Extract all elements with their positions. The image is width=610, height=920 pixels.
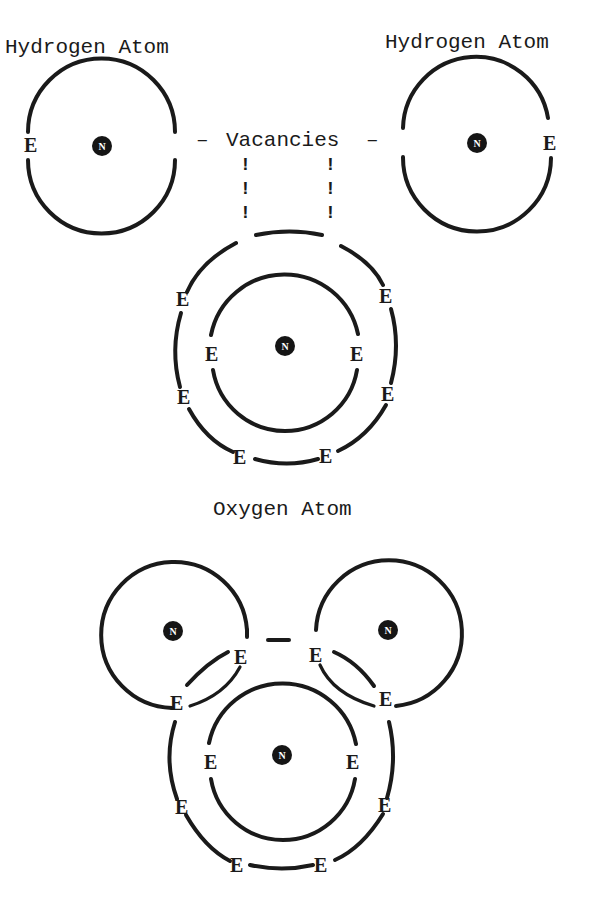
electron-label: E bbox=[350, 343, 363, 365]
outer-shell-arc bbox=[250, 865, 313, 869]
vacancy-marker: ! bbox=[325, 203, 336, 223]
inner-shell-arc bbox=[209, 683, 356, 744]
vacancies-annotation: – Vacancies – ! ! ! ! ! ! bbox=[196, 129, 379, 223]
oxygen-atom-label: Oxygen Atom bbox=[213, 498, 352, 521]
vacancy-marker: ! bbox=[325, 155, 336, 175]
electron-label: E bbox=[314, 854, 327, 876]
vacancy-marker: ! bbox=[325, 179, 336, 199]
vacancy-marker: ! bbox=[240, 203, 251, 223]
outer-shell-arc bbox=[256, 232, 322, 236]
outer-shell-arc bbox=[391, 309, 396, 383]
hydrogen-atom-right-label: Hydrogen Atom bbox=[385, 31, 549, 54]
hydrogen-atom-right: Hydrogen Atom E N bbox=[385, 31, 556, 232]
electron-label: E bbox=[346, 751, 359, 773]
outer-shell-arc bbox=[338, 405, 386, 451]
shared-bond-arc bbox=[334, 652, 374, 686]
electron-label: E bbox=[381, 383, 394, 405]
nucleus-label: N bbox=[473, 138, 481, 149]
outer-shell-arc bbox=[387, 722, 393, 798]
inner-shell-arc bbox=[211, 779, 355, 840]
orbit-arc bbox=[28, 59, 175, 133]
electron-label: E bbox=[176, 288, 189, 310]
electron-label: E bbox=[24, 134, 37, 156]
electron-label: E bbox=[204, 751, 217, 773]
electron-label: E bbox=[234, 646, 247, 668]
orbit-arc bbox=[403, 57, 548, 128]
inner-shell-arc bbox=[211, 274, 358, 335]
electron-label: E bbox=[543, 132, 556, 154]
water-molecule: E E E E E E E E E E N N N bbox=[101, 560, 462, 876]
outer-shell-arc bbox=[341, 246, 383, 285]
outer-shell-arc bbox=[186, 815, 230, 861]
inner-shell-arc bbox=[213, 370, 357, 431]
orbit-arc bbox=[28, 160, 175, 234]
nucleus-label: N bbox=[278, 750, 286, 761]
outer-shell-arc bbox=[255, 459, 318, 464]
outer-shell-arc bbox=[175, 313, 181, 387]
hydrogen-atom-left-label: Hydrogen Atom bbox=[5, 36, 169, 59]
vacancy-left-dash: – bbox=[196, 129, 209, 152]
vacancy-marker: ! bbox=[240, 179, 251, 199]
electron-label: E bbox=[309, 644, 322, 666]
vacancy-right-dash: – bbox=[366, 129, 379, 152]
shared-bond-arc bbox=[187, 652, 228, 685]
electron-label: E bbox=[319, 445, 332, 467]
vacancies-label: Vacancies bbox=[226, 129, 339, 152]
vacancy-marker: ! bbox=[240, 155, 251, 175]
electron-label: E bbox=[233, 446, 246, 468]
electron-label: E bbox=[205, 343, 218, 365]
nucleus-label: N bbox=[98, 141, 106, 152]
electron-label: E bbox=[379, 285, 392, 307]
outer-shell-arc bbox=[187, 243, 236, 292]
water-molecule-diagram: Hydrogen Atom E N Hydrogen Atom E N – Va… bbox=[0, 0, 610, 920]
nucleus-label: N bbox=[281, 341, 289, 352]
orbit-arc bbox=[403, 157, 551, 232]
nucleus-label: N bbox=[384, 625, 392, 636]
electron-label: E bbox=[379, 688, 392, 710]
electron-label: E bbox=[170, 692, 183, 714]
outer-shell-arc bbox=[335, 814, 383, 860]
electron-label: E bbox=[230, 854, 243, 876]
nucleus-label: N bbox=[169, 626, 177, 637]
hydrogen-atom-left: Hydrogen Atom E N bbox=[5, 36, 175, 234]
electron-label: E bbox=[177, 386, 190, 408]
outer-shell-arc bbox=[169, 722, 177, 799]
outer-shell-arc bbox=[189, 409, 233, 452]
electron-label: E bbox=[378, 794, 391, 816]
electron-label: E bbox=[175, 796, 188, 818]
oxygen-atom: E E E E E E E E N Oxygen Atom bbox=[175, 232, 396, 522]
